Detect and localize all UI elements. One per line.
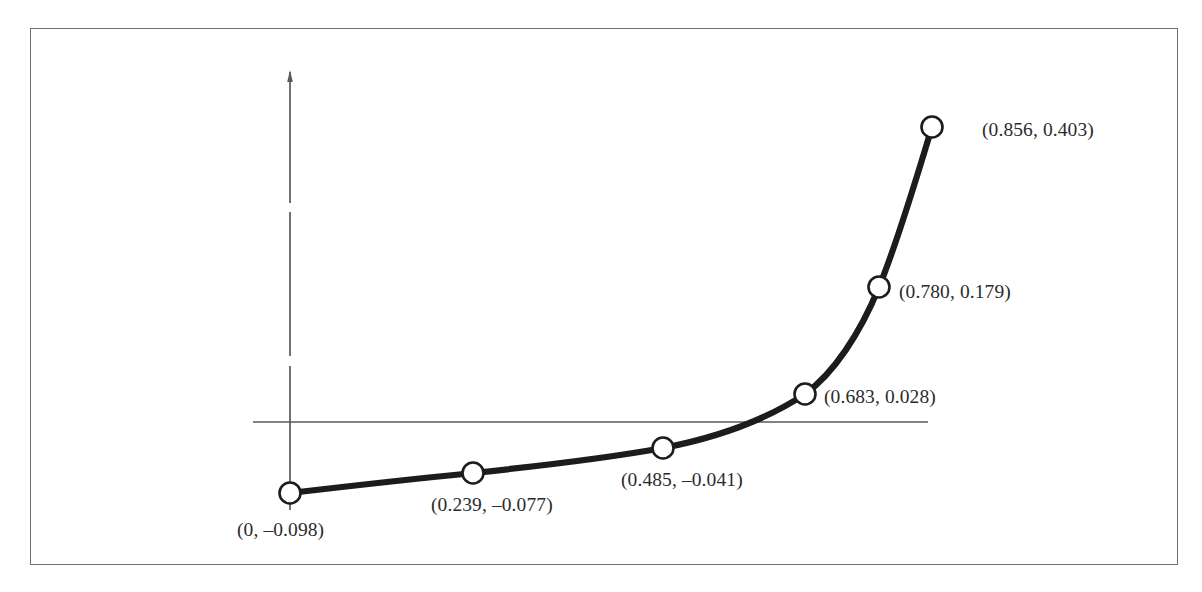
point-label-1: (0.239, –0.077) [431, 494, 553, 516]
point-label-3: (0.683, 0.028) [824, 386, 936, 408]
data-point-markers [280, 117, 943, 504]
data-point-marker [463, 463, 484, 484]
data-point-marker [869, 277, 890, 298]
chart-canvas [0, 0, 1202, 592]
data-point-marker [795, 384, 816, 405]
data-curve [290, 127, 932, 493]
data-point-marker [922, 117, 943, 138]
point-label-5: (0.856, 0.403) [982, 119, 1094, 141]
point-label-2: (0.485, –0.041) [621, 469, 743, 491]
figure-container: (0, –0.098) (0.239, –0.077) (0.485, –0.0… [0, 0, 1202, 592]
data-point-marker [653, 438, 674, 459]
point-label-4: (0.780, 0.179) [899, 281, 1011, 303]
data-point-marker [280, 483, 301, 504]
point-label-0: (0, –0.098) [237, 519, 324, 541]
y-axis-line [287, 70, 293, 510]
